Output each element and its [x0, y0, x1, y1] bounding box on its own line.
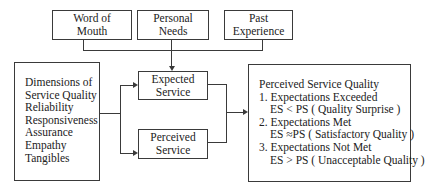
past-experience-line1: Past [249, 12, 268, 25]
perceived-service-box: Perceived Service [138, 129, 208, 159]
connector-top-horizontal [83, 50, 263, 51]
dimensions-title-line2: Service Quality [25, 89, 98, 102]
perceived-service-quality-box: Perceived Service Quality 1. Expectation… [248, 64, 411, 182]
result-item-detail: ES < PS ( Quality Surprise ) [259, 103, 425, 116]
connector-dimensions-vertical [120, 85, 121, 153]
result-item-heading: 3. Expectations Not Met [259, 141, 425, 154]
past-experience-box: Past Experience [224, 10, 293, 40]
connector-past-experience-down [262, 40, 263, 51]
connector-to-result [226, 112, 244, 113]
dimensions-title-line1: Dimensions of [25, 76, 98, 89]
dimension-item: Assurance [25, 126, 98, 139]
result-item-detail: ES ≈PS ( Satisfactory Quality ) [259, 128, 425, 141]
word-of-mouth-line1: Word of [73, 12, 111, 25]
connector-dimensions-out [100, 113, 120, 114]
word-of-mouth-line2: Mouth [77, 25, 108, 38]
dimension-item: Empathy [25, 139, 98, 152]
connector-word-of-mouth-down [83, 40, 84, 50]
connector-expected-out [208, 84, 226, 85]
result-title: Perceived Service Quality [259, 78, 425, 91]
dimension-item: Tangibles [25, 152, 98, 165]
result-item-detail: ES > PS ( Unacceptable Quality ) [259, 154, 425, 167]
expected-service-line1: Expected [152, 73, 195, 86]
connector-merge-vertical [226, 84, 227, 143]
result-item-heading: 1. Expectations Exceeded [259, 91, 425, 104]
past-experience-line2: Experience [233, 25, 285, 38]
personal-needs-line1: Personal [153, 12, 193, 25]
dimensions-box: Dimensions of Service Quality Reliabilit… [14, 62, 100, 181]
expected-service-line2: Service [156, 86, 190, 99]
dimension-item: Responsiveness [25, 114, 98, 127]
perceived-service-line1: Perceived [150, 131, 195, 144]
dimension-item: Reliability [25, 101, 98, 114]
result-item-heading: 2. Expectations Met [259, 116, 425, 129]
personal-needs-box: Personal Needs [137, 10, 209, 40]
connector-to-expected [120, 85, 134, 86]
expected-service-box: Expected Service [138, 71, 208, 100]
connector-personal-needs-down [171, 40, 172, 68]
connector-to-perceived [120, 153, 134, 154]
perceived-service-line2: Service [156, 144, 190, 157]
personal-needs-line2: Needs [159, 25, 188, 38]
connector-perceived-out [208, 142, 226, 143]
word-of-mouth-box: Word of Mouth [52, 10, 132, 40]
